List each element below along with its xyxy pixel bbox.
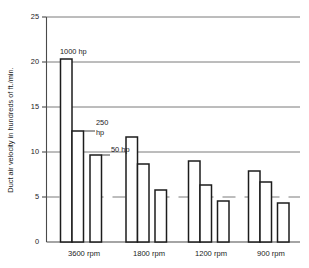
y-tick-label-15: 15 (31, 102, 39, 111)
bar-group-1800-rpm: 1800 rpm (126, 137, 167, 258)
y-tick-label-20: 20 (31, 57, 39, 66)
x-axis-label-3600-rpm: 3600 rpm (68, 249, 100, 258)
chart-figure: 25 20 15 10 5 0 Duct air velocity in hun… (0, 0, 309, 268)
bar-1200rpm-1000hp[interactable] (189, 161, 201, 242)
bar-chart-canvas: 25 20 15 10 5 0 Duct air velocity in hun… (0, 0, 309, 268)
annotation-250hp-line1: 250 (96, 118, 108, 127)
bar-900rpm-1000hp[interactable] (249, 171, 261, 242)
y-tick-label-0: 0 (35, 237, 39, 246)
bar-900rpm-50hp[interactable] (278, 203, 290, 242)
bar-1200rpm-250hp[interactable] (200, 185, 212, 242)
annotation-50hp: 50 hp (111, 145, 130, 154)
x-axis-label-900-rpm: 900 rpm (257, 249, 285, 258)
annotation-250hp-line2: hp (96, 128, 104, 137)
bar-1200rpm-50hp[interactable] (218, 201, 230, 242)
bar-group-1200-rpm: 1200 rpm (189, 161, 230, 258)
y-tick-labels: 25 20 15 10 5 0 (31, 12, 39, 246)
bar-3600rpm-50hp[interactable] (90, 155, 102, 242)
bar-1800rpm-250hp[interactable] (138, 164, 150, 242)
y-tick-label-5: 5 (35, 192, 39, 201)
x-axis-label-1800-rpm: 1800 rpm (133, 249, 165, 258)
annotation-1000hp: 1000 hp (60, 47, 87, 56)
bar-900rpm-250hp[interactable] (260, 182, 272, 242)
bar-1800rpm-50hp[interactable] (155, 190, 167, 242)
y-axis-title: Duct air velocity in hundreds of ft./min… (6, 67, 15, 192)
bar-group-3600-rpm: 3600 rpm (61, 59, 102, 258)
y-tick-label-25: 25 (31, 12, 39, 21)
grid-lines (47, 17, 301, 197)
x-axis-label-1200-rpm: 1200 rpm (195, 249, 227, 258)
bar-3600rpm-250hp[interactable] (72, 131, 84, 242)
y-tick-marks (42, 17, 47, 197)
y-tick-label-10: 10 (31, 147, 39, 156)
bar-group-900-rpm: 900 rpm (249, 171, 290, 258)
bar-3600rpm-1000hp[interactable] (61, 59, 73, 242)
